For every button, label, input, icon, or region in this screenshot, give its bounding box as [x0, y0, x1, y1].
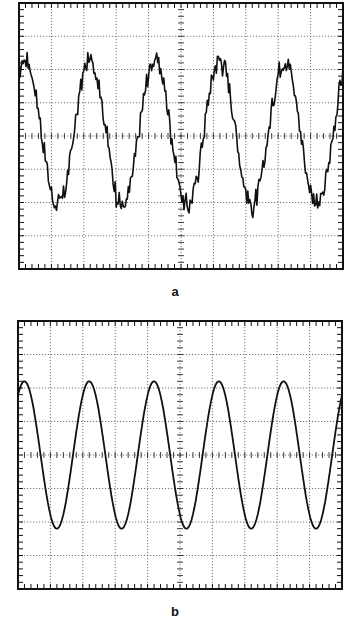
panel-label-b: b — [165, 604, 185, 619]
oscilloscope-trace-a — [18, 2, 344, 270]
panel-label-a: a — [165, 284, 185, 299]
oscilloscope-trace-b — [17, 320, 343, 590]
scope-panel-b — [17, 320, 343, 590]
scope-panel-a — [18, 2, 344, 270]
